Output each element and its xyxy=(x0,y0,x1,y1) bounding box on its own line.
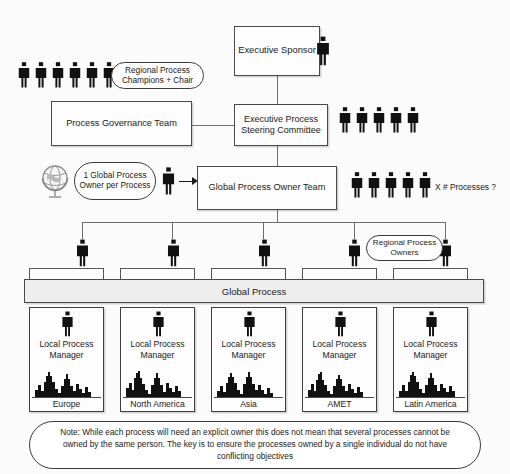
region-card-amet[interactable]: Local Process Manager AMET xyxy=(302,307,377,412)
region-name-label: North America xyxy=(123,397,192,409)
person-icon xyxy=(332,311,349,337)
connector-steering-to-gpot xyxy=(277,145,278,166)
global-process-owner-team-label: Global Process Owner Team xyxy=(209,182,326,193)
person-icon xyxy=(84,60,100,90)
person-icon xyxy=(59,311,76,337)
bus-drop-3 xyxy=(263,222,264,239)
executive-sponsor-box[interactable]: Executive Sponsor xyxy=(234,26,320,76)
person-icon xyxy=(417,170,433,200)
person-icon xyxy=(33,60,49,90)
person-icon xyxy=(354,105,370,135)
global-process-tab-2 xyxy=(120,268,195,279)
person-icon xyxy=(349,170,365,200)
city-skyline-icon xyxy=(126,370,191,398)
region-card-north-america[interactable]: Local Process Manager North America xyxy=(120,307,195,412)
region-name-label: Latin America xyxy=(396,397,465,409)
city-skyline-icon xyxy=(35,370,100,398)
process-governance-team-label: Process Governance Team xyxy=(66,118,177,129)
person-icon xyxy=(256,239,273,267)
region-role-label: Local Process Manager xyxy=(212,339,285,360)
person-icon xyxy=(314,36,332,66)
region-role-label: Local Process Manager xyxy=(121,339,194,360)
global-process-owner-team-box[interactable]: Global Process Owner Team xyxy=(197,166,337,210)
person-icon xyxy=(371,105,387,135)
region-card-latin-america[interactable]: Local Process Manager Latin America xyxy=(393,307,468,412)
executive-process-steering-committee-label: Executive Process Steering Committee xyxy=(235,114,327,136)
executive-process-steering-committee-box[interactable]: Executive Process Steering Committee xyxy=(234,104,328,146)
connector-governance-to-steering xyxy=(192,125,234,126)
global-process-tab-5 xyxy=(393,268,468,279)
bus-drop-5 xyxy=(445,222,446,239)
region-card-asia[interactable]: Local Process Manager Asia xyxy=(211,307,286,412)
global-process-bar[interactable]: Global Process xyxy=(24,279,484,303)
region-role-label: Local Process Manager xyxy=(394,339,467,360)
person-icon xyxy=(337,105,353,135)
executive-sponsor-label: Executive Sponsor xyxy=(238,45,316,56)
process-governance-team-box[interactable]: Process Governance Team xyxy=(51,101,192,146)
regional-process-owners-callout[interactable]: Regional Process Owners xyxy=(366,235,443,261)
city-skyline-icon xyxy=(217,370,282,398)
person-icon xyxy=(346,239,363,267)
note-text: Note: While each process will need an ex… xyxy=(60,427,450,461)
region-card-europe[interactable]: Local Process Manager Europe xyxy=(29,307,104,412)
org-chart-diagram: Executive Sponsor Regional Process Champ… xyxy=(0,0,510,474)
globe-icon xyxy=(38,163,72,201)
region-role-label: Local Process Manager xyxy=(30,339,103,360)
person-icon xyxy=(150,311,167,337)
global-process-label: Global Process xyxy=(222,286,286,297)
region-role-label: Local Process Manager xyxy=(303,339,376,360)
person-icon xyxy=(423,311,440,337)
global-process-tab-3 xyxy=(211,268,286,279)
person-icon xyxy=(67,60,83,90)
region-name-label: Europe xyxy=(32,397,101,409)
global-process-tab-1 xyxy=(29,268,104,279)
bus-drop-2 xyxy=(172,222,173,239)
regional-process-owners-label: Regional Process Owners xyxy=(367,238,442,257)
bus-drop-4 xyxy=(354,222,355,239)
region-name-label: Asia xyxy=(214,397,283,409)
person-icon xyxy=(165,239,182,267)
connector-sponsor-to-steering xyxy=(277,76,278,105)
person-icon xyxy=(241,311,258,337)
person-icon xyxy=(366,170,382,200)
person-icon xyxy=(383,170,399,200)
person-icon xyxy=(16,60,32,90)
one-global-process-owner-callout[interactable]: 1 Global Process Owner per Process xyxy=(74,162,156,200)
regional-process-champions-callout[interactable]: Regional Process Champions + Chair xyxy=(111,62,204,89)
note-callout: Note: While each process will need an ex… xyxy=(29,421,481,469)
city-skyline-icon xyxy=(399,370,464,398)
regional-process-champions-label: Regional Process Champions + Chair xyxy=(112,66,203,86)
city-skyline-icon xyxy=(308,370,373,398)
person-icon xyxy=(160,166,177,196)
person-icon xyxy=(405,105,421,135)
bus-drop-1 xyxy=(82,222,83,239)
person-icon xyxy=(74,239,91,267)
region-name-label: AMET xyxy=(305,397,374,409)
person-icon xyxy=(388,105,404,135)
processes-question-label: X # Processes ? xyxy=(435,182,496,192)
one-global-process-owner-label: 1 Global Process Owner per Process xyxy=(75,171,155,191)
person-icon xyxy=(50,60,66,90)
person-icon xyxy=(400,170,416,200)
global-process-tab-4 xyxy=(302,268,377,279)
